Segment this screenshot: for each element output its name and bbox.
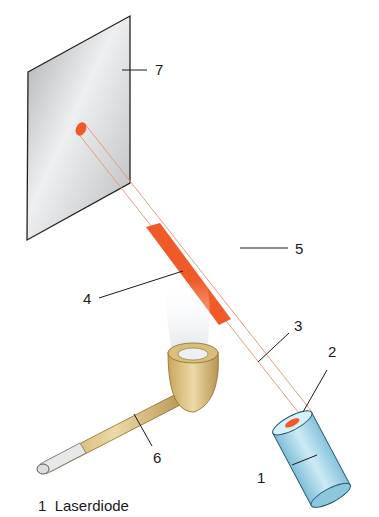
label-2: 2 [328,344,336,359]
label-4: 4 [83,291,91,306]
diagram-svg [0,0,379,517]
label-1: 1 [257,470,265,485]
pipe [37,343,218,474]
smoke [165,280,209,352]
label-6: 6 [153,450,161,465]
label-3: 3 [294,318,302,333]
diagram-canvas: 7 5 4 3 2 6 1 1 Laserdiode [0,0,379,517]
legend: 1 Laserdiode [38,497,129,514]
legend-number: 1 [38,497,46,514]
laser-diode [270,406,354,511]
label-5: 5 [295,241,303,256]
legend-text: Laserdiode [55,497,129,514]
label-7: 7 [155,62,163,77]
